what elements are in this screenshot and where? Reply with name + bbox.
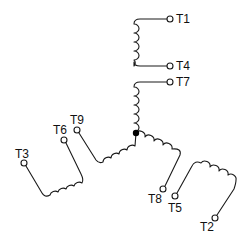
coil-t2-t5 xyxy=(177,161,236,215)
terminal-t6 xyxy=(61,137,67,143)
label-t1: T1 xyxy=(176,12,190,26)
coil-t9-star xyxy=(79,133,136,163)
terminal-t1 xyxy=(167,16,173,22)
coil-t1-t4 xyxy=(134,19,167,66)
terminal-t7 xyxy=(167,79,173,85)
terminal-t4 xyxy=(167,63,173,69)
label-t6: T6 xyxy=(53,123,67,137)
label-t9: T9 xyxy=(70,113,84,127)
label-t7: T7 xyxy=(176,75,190,89)
wye-winding-diagram: T1 T4 T7 T9 T6 T3 T8 T5 T2 xyxy=(0,0,248,243)
terminal-t9 xyxy=(74,127,80,133)
label-t2: T2 xyxy=(200,220,214,234)
star-point-junction xyxy=(133,130,139,136)
label-t8: T8 xyxy=(148,192,162,206)
label-t4: T4 xyxy=(176,59,190,73)
terminal-t5 xyxy=(172,193,178,199)
coil-t8-star xyxy=(136,131,180,186)
coil-t3-t6 xyxy=(26,143,83,196)
coil-t7-star xyxy=(134,82,167,133)
label-t5: T5 xyxy=(168,201,182,215)
label-t3: T3 xyxy=(15,147,29,161)
